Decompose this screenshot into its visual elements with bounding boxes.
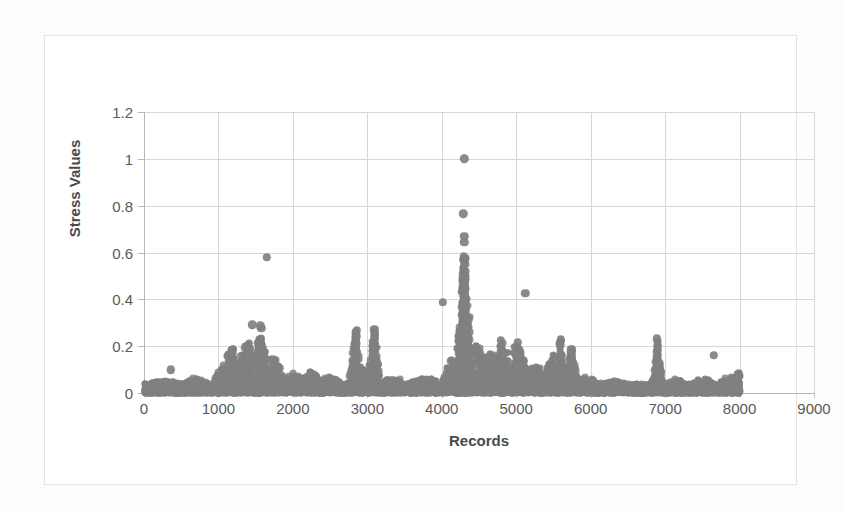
scatter-point [446, 373, 453, 380]
scatter-point [336, 387, 343, 394]
x-tick-label: 6000 [574, 400, 607, 417]
scatter-point [489, 363, 496, 370]
scatter-point [696, 386, 703, 393]
scatter-point [351, 359, 358, 366]
scatter-point [370, 349, 377, 356]
scatter-point [352, 387, 359, 394]
scatter-point [558, 361, 565, 368]
x-tick-label: 4000 [425, 400, 458, 417]
y-tick-label: 0.8 [112, 197, 133, 214]
scatter-point [460, 155, 468, 163]
scatter-point [566, 382, 573, 389]
scatter-point [441, 389, 448, 396]
y-axis-title: Stress Values [66, 109, 83, 269]
scatter-point [256, 349, 263, 356]
x-tick-label: 8000 [723, 400, 756, 417]
scatter-point [353, 373, 360, 380]
scatter-point [383, 377, 390, 384]
scatter-point [498, 376, 505, 383]
scatter-point [257, 390, 264, 397]
scatter-point [521, 289, 529, 297]
scatter-point [245, 381, 252, 388]
scatter-point [371, 340, 378, 347]
x-tick-label: 2000 [276, 400, 309, 417]
scatter-point [528, 388, 535, 395]
scatter-point [473, 374, 480, 381]
scatter-point [353, 353, 360, 360]
y-axis-tick-labels: 00.20.40.60.811.2 [95, 0, 133, 514]
y-tick-label: 1.2 [112, 104, 133, 121]
scatter-point [183, 383, 190, 390]
scatter-point [159, 387, 166, 394]
gridline-vertical [814, 112, 815, 393]
scatter-point [202, 386, 209, 393]
scatter-point [464, 323, 471, 330]
scatter-point [710, 387, 717, 394]
scatter-point [653, 375, 660, 382]
scatter-point [243, 352, 250, 359]
scatter-point [246, 389, 253, 396]
scatter-point [247, 372, 254, 379]
scatter-point [227, 363, 234, 370]
scatter-point [256, 371, 263, 378]
scatter-point [353, 337, 360, 344]
scatter-point [485, 386, 492, 393]
scatter-points-layer [144, 112, 814, 393]
y-tick-label: 1 [125, 150, 133, 167]
scatter-point [430, 388, 437, 395]
scatter-point [680, 388, 687, 395]
scatter-point [446, 367, 453, 374]
scatter-point [170, 385, 177, 392]
plot-area [144, 112, 814, 393]
scatter-point [459, 210, 467, 218]
scatter-point [734, 377, 741, 384]
scatter-point [499, 388, 506, 395]
scatter-point [549, 357, 556, 364]
scatter-point [267, 368, 274, 375]
scatter-point [333, 376, 340, 383]
scatter-point [462, 272, 469, 279]
x-tick-label: 0 [140, 400, 148, 417]
scatter-point [459, 335, 466, 342]
scatter-point [615, 389, 622, 396]
scatter-point [523, 376, 530, 383]
x-tick-label: 7000 [648, 400, 681, 417]
scatter-point [498, 366, 505, 373]
scatter-point [576, 376, 583, 383]
x-tick-label: 3000 [351, 400, 384, 417]
scatter-point [371, 389, 378, 396]
x-tick-label: 5000 [500, 400, 533, 417]
scatter-point [191, 385, 198, 392]
scatter-point [709, 351, 717, 359]
page-background: 00.20.40.60.811.2 0100020003000400050006… [0, 0, 845, 514]
scatter-point [459, 304, 466, 311]
scatter-point [533, 368, 540, 375]
y-tick-label: 0.6 [112, 244, 133, 261]
scatter-point [167, 365, 175, 373]
scatter-point [255, 359, 262, 366]
scatter-point [229, 389, 236, 396]
scatter-point [544, 387, 551, 394]
scatter-point [513, 383, 520, 390]
scatter-point [274, 386, 281, 393]
scatter-point [245, 340, 252, 347]
scatter-point [460, 345, 467, 352]
scatter-point [669, 387, 676, 394]
scatter-point [229, 375, 236, 382]
scatter-point [558, 388, 565, 395]
scatter-point [474, 388, 481, 395]
scatter-point [257, 324, 265, 332]
scatter-point [385, 385, 392, 392]
scatter-point [558, 378, 565, 385]
scatter-point [310, 386, 317, 393]
scatter-point [438, 298, 446, 306]
scatter-point [459, 381, 466, 388]
scatter-point [460, 238, 468, 246]
scatter-point [218, 388, 225, 395]
scatter-point [641, 387, 648, 394]
scatter-point [568, 369, 575, 376]
y-tick-label: 0.2 [112, 338, 133, 355]
scatter-point [294, 389, 301, 396]
scatter-point [735, 388, 742, 395]
scatter-point [257, 334, 264, 341]
